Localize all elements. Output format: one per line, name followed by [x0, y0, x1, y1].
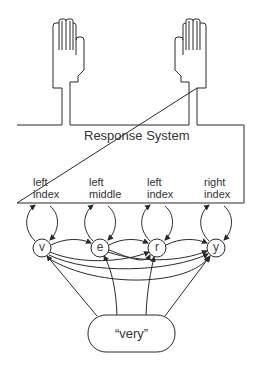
node-label-v: v [33, 240, 51, 254]
node-label-e: e [91, 240, 109, 254]
left-hand-icon [53, 19, 84, 88]
finger-label-right-index: right index [204, 176, 230, 200]
node-label-r: r [148, 240, 166, 254]
feedback-loops [27, 205, 232, 241]
finger-label-left-index-2: left index [147, 176, 173, 200]
lateral-connections [48, 239, 209, 280]
right-hand-icon [175, 19, 206, 88]
node-label-y: y [207, 240, 225, 254]
word-node-label: “very” [88, 326, 175, 341]
response-system-title: Response System [84, 128, 190, 143]
finger-label-left-index-1: left index [33, 176, 59, 200]
finger-label-left-middle: left middle [89, 176, 121, 200]
word-to-letter-connections [47, 256, 210, 316]
